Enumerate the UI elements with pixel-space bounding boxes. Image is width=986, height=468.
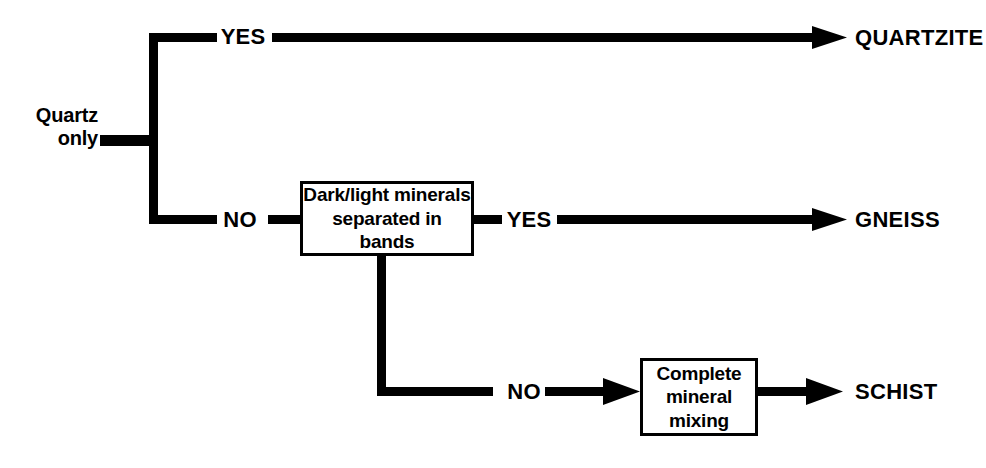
source-node-label: Quartz only	[0, 104, 98, 150]
connector-quartzite-shaft	[272, 33, 818, 42]
connector-source-stub	[100, 135, 157, 146]
connector-trunk-vertical	[149, 33, 158, 224]
arrowhead-schist	[806, 378, 843, 405]
connector-gneiss-shaft	[557, 215, 818, 224]
arrowhead-mixing	[603, 378, 640, 405]
terminal-gneiss: GNEISS	[855, 207, 940, 233]
flowchart-connectors	[0, 0, 986, 468]
connector-banding-no-run	[377, 387, 493, 396]
edge-label-banding-yes: YES	[484, 207, 574, 233]
arrowhead-quartzite	[812, 26, 847, 49]
arrowhead-gneiss	[812, 208, 847, 231]
edge-label-quartz-no: NO	[198, 207, 282, 233]
process-box-mixing: Complete mineral mixing	[640, 358, 758, 436]
connector-mixing-shaft	[545, 387, 609, 396]
terminal-quartzite: QUARTZITE	[855, 25, 984, 51]
flowchart-canvas: Quartz only YES NO Dark/light minerals s…	[0, 0, 986, 468]
process-box-mixing-label: Complete mineral mixing	[643, 361, 755, 433]
connector-schist-shaft	[756, 387, 813, 396]
connector-banding-no-vertical	[377, 254, 386, 396]
decision-box-banding: Dark/light minerals separated in bands	[300, 181, 474, 256]
decision-box-banding-label: Dark/light minerals separated in bands	[303, 184, 471, 253]
edge-label-banding-no: NO	[494, 379, 554, 405]
terminal-schist: SCHIST	[855, 379, 937, 405]
edge-label-quartz-yes: YES	[198, 24, 288, 50]
